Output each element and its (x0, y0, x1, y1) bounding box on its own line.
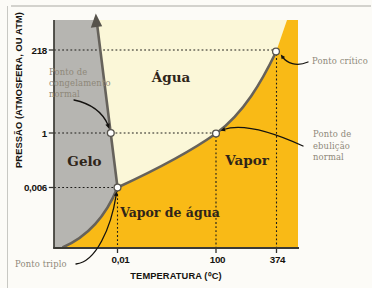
vapor-region-label: Vapor (224, 152, 269, 168)
boiling-note-line1: Ponto de (313, 129, 351, 139)
y-axis-title: PRESSÃO (ATMOSFERA, OU ATM) (14, 12, 24, 168)
x-tick-100: 100 (210, 254, 226, 265)
critical-point-marker (273, 48, 280, 55)
x-tick-001: 0,01 (112, 254, 131, 265)
textbook-figure-page: PRESSÃO (ATMOSFERA, OU ATM) TEMPERATURA … (0, 0, 372, 288)
ice-region-label: Gelo (67, 153, 101, 169)
x-tick-374: 374 (270, 254, 286, 265)
water-vapor-region-label: Vapor de água (119, 205, 220, 220)
freezing-note-line1: Ponto de (49, 67, 87, 77)
x-axis-title: TEMPERATURA (⁰C) (130, 271, 221, 281)
critical-point-annotation: Ponto crítico (312, 56, 368, 66)
triple-point-marker (114, 184, 121, 191)
boiling-note-line3: normal (313, 152, 344, 162)
normal-boiling-point-marker (213, 130, 220, 137)
normal-freezing-point-marker (107, 130, 114, 137)
y-tick-0006: 0,006 (24, 182, 48, 193)
water-phase-diagram: PRESSÃO (ATMOSFERA, OU ATM) TEMPERATURA … (0, 0, 372, 288)
triple-point-annotation: Ponto triplo (15, 259, 67, 269)
water-region-label: Água (151, 69, 191, 85)
freezing-note-line2: congelamento (49, 78, 111, 88)
freezing-note-line3: normal (49, 89, 80, 99)
y-tick-218: 218 (32, 45, 48, 56)
boiling-point-annotation: Ponto de ebulição normal (313, 129, 351, 162)
y-tick-1: 1 (42, 128, 48, 139)
boiling-note-line2: ebulição (313, 141, 350, 151)
